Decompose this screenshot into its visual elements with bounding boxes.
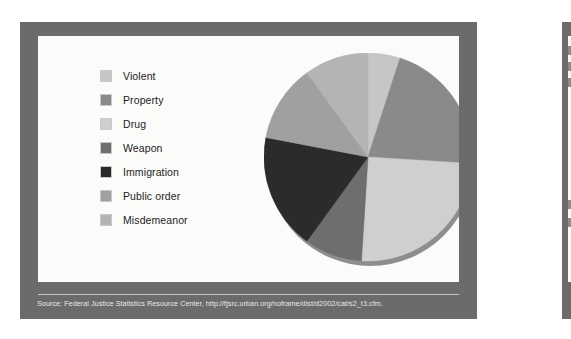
legend-item-misdemeanor[interactable]: Misdemeanor: [100, 208, 250, 231]
legend-swatch-violent: [100, 70, 112, 82]
legend-swatch-public-order: [100, 190, 112, 202]
legend-item-immigration[interactable]: Immigration: [100, 160, 250, 183]
legend-swatch-property: [100, 94, 112, 106]
legend-label-public-order: Public order: [123, 190, 180, 202]
legend-swatch-weapon: [100, 142, 112, 154]
adjacent-slide-frame[interactable]: [562, 22, 571, 319]
legend-label-drug: Drug: [123, 118, 146, 130]
legend-label-immigration: Immigration: [123, 166, 179, 178]
pie-chart-svg: [264, 53, 459, 268]
legend-label-weapon: Weapon: [123, 142, 163, 154]
legend-item-property[interactable]: Property: [100, 88, 250, 111]
chart-panel: Violent Property Drug Weapon: [38, 36, 459, 282]
legend-swatch-immigration: [100, 166, 112, 178]
slide-content-area: Violent Property Drug Weapon: [38, 36, 459, 282]
page-root: Violent Property Drug Weapon: [0, 0, 571, 339]
chart-legend: Violent Property Drug Weapon: [100, 64, 250, 232]
footer-divider: [38, 294, 459, 295]
legend-item-violent[interactable]: Violent: [100, 64, 250, 87]
legend-label-property: Property: [123, 94, 163, 106]
legend-item-public-order[interactable]: Public order: [100, 184, 250, 207]
slide-frame: Violent Property Drug Weapon: [20, 22, 477, 319]
legend-item-weapon[interactable]: Weapon: [100, 136, 250, 159]
legend-swatch-drug: [100, 118, 112, 130]
pie-slice-drug[interactable]: [361, 157, 459, 261]
pie-chart: [264, 53, 459, 268]
legend-label-violent: Violent: [123, 70, 156, 82]
source-citation: Source: Federal Justice Statistics Resou…: [37, 299, 467, 308]
legend-swatch-misdemeanor: [100, 214, 112, 226]
legend-item-drug[interactable]: Drug: [100, 112, 250, 135]
legend-label-misdemeanor: Misdemeanor: [123, 214, 188, 226]
